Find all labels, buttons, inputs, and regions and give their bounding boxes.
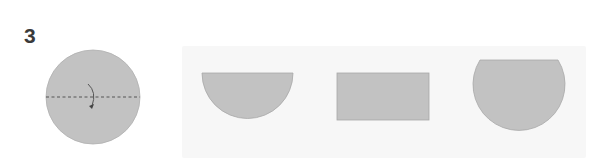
- option-rectangle[interactable]: [337, 73, 429, 120]
- option-truncated-circle[interactable]: [473, 60, 565, 130]
- option-half-circle[interactable]: [202, 73, 293, 119]
- answer-options: [0, 0, 600, 168]
